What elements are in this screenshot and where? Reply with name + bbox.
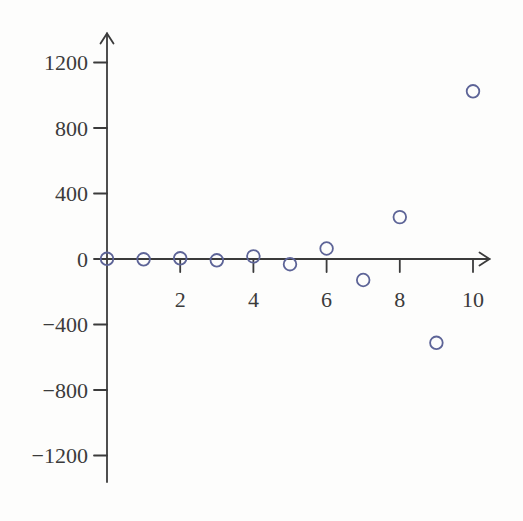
y-tick-label: −400	[43, 312, 88, 337]
y-tick-label: 400	[55, 181, 88, 206]
y-tick-label: −1200	[32, 443, 88, 468]
data-point	[357, 274, 370, 287]
scatter-plot-figure: 12008004000−400−800−1200246810	[0, 0, 523, 521]
y-tick-label: 800	[55, 116, 88, 141]
scatter-plot: 12008004000−400−800−1200246810	[0, 0, 523, 521]
x-tick-label: 6	[321, 287, 332, 312]
y-tick-label: −800	[43, 378, 88, 403]
data-point	[320, 242, 333, 255]
data-point	[394, 211, 407, 224]
data-point	[467, 85, 480, 98]
y-tick-label: 0	[77, 247, 88, 272]
data-point	[211, 254, 224, 267]
x-tick-label: 4	[248, 287, 259, 312]
x-tick-label: 10	[462, 287, 484, 312]
x-tick-label: 8	[394, 287, 405, 312]
x-tick-label: 2	[175, 287, 186, 312]
y-tick-label: 1200	[44, 50, 88, 75]
data-point	[430, 337, 443, 350]
